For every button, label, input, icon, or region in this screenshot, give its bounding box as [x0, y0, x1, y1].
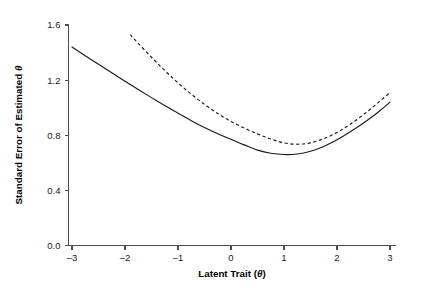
- y-axis-title-theta: θ: [13, 65, 24, 71]
- series-dashed-curve: [130, 35, 390, 145]
- y-axis-title-main: Standard Error of Estimated: [13, 71, 24, 204]
- y-tick-label: 0.8: [47, 130, 60, 141]
- x-tick-label: 0: [228, 252, 233, 263]
- y-axis-title: Standard Error of Estimated θ: [13, 65, 24, 204]
- y-tick-label: 1.6: [47, 19, 60, 30]
- line-chart: 0.00.40.81.21.6 –3–2–10123 Latent Trait …: [0, 0, 424, 300]
- x-axis-title-paren-close: ): [263, 268, 266, 279]
- chart-axes: [69, 25, 397, 246]
- x-tick-label: –1: [173, 252, 184, 263]
- x-tick-label: 2: [334, 252, 339, 263]
- y-tick-label: 0.4: [47, 185, 60, 196]
- y-axis-ticks: 0.00.40.81.21.6: [47, 19, 68, 251]
- y-tick-label: 0.0: [47, 240, 60, 251]
- svg-text:Standard Error of Estimated θ: Standard Error of Estimated θ: [13, 65, 24, 204]
- data-series-group: [72, 35, 390, 155]
- svg-text:Latent Trait (θ): Latent Trait (θ): [198, 268, 266, 279]
- x-tick-label: –2: [120, 252, 131, 263]
- x-axis-title: Latent Trait (θ): [198, 268, 266, 279]
- x-tick-label: –3: [67, 252, 78, 263]
- x-tick-label: 1: [281, 252, 286, 263]
- x-tick-label: 3: [387, 252, 392, 263]
- chart-figure: 0.00.40.81.21.6 –3–2–10123 Latent Trait …: [0, 0, 424, 300]
- series-solid-curve: [72, 47, 390, 155]
- x-axis-title-main: Latent Trait: [198, 268, 252, 279]
- x-axis-ticks: –3–2–10123: [67, 246, 393, 263]
- y-tick-label: 1.2: [47, 75, 60, 86]
